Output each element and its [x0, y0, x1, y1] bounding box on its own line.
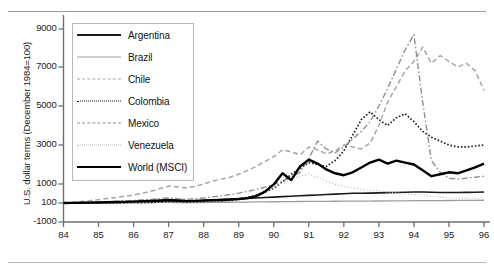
- legend-swatch-chile: [77, 74, 121, 85]
- y-tick-label: -1000: [13, 215, 57, 226]
- x-tick-label: 85: [88, 229, 110, 240]
- y-tick-label: 7000: [13, 60, 57, 71]
- legend-label: Brazil: [128, 52, 152, 63]
- x-tick-label: 91: [298, 229, 320, 240]
- y-tick-label: 100: [13, 196, 57, 207]
- legend-item-mexico: Mexico: [73, 112, 193, 134]
- x-tick-label: 96: [473, 229, 494, 240]
- legend-item-world: World (MSCI): [73, 156, 193, 178]
- legend-swatch-world: [77, 162, 121, 173]
- x-tick-label: 93: [368, 229, 390, 240]
- chart-legend: ArgentinaBrazilChileColombiaMexicoVenezu…: [72, 23, 194, 181]
- legend-swatch-venezuela: [77, 140, 121, 151]
- x-tick-label: 89: [228, 229, 250, 240]
- legend-item-argentina: Argentina: [73, 24, 193, 46]
- x-tick-label: 87: [158, 229, 180, 240]
- legend-swatch-brazil: [77, 52, 121, 63]
- y-tick-label: 3000: [13, 138, 57, 149]
- chart-figure: U.S. dollar terms (December 1984=100) 90…: [0, 0, 494, 273]
- legend-label: Chile: [128, 74, 150, 85]
- x-tick-label: 94: [403, 229, 425, 240]
- legend-item-brazil: Brazil: [73, 46, 193, 68]
- legend-label: Colombia: [128, 96, 169, 107]
- x-tick-label: 86: [123, 229, 145, 240]
- legend-swatch-argentina: [77, 30, 121, 41]
- x-tick-label: 90: [263, 229, 285, 240]
- legend-label: Argentina: [128, 30, 170, 41]
- legend-label: Venezuela: [128, 140, 174, 151]
- x-tick-label: 95: [438, 229, 460, 240]
- x-tick-label: 92: [333, 229, 355, 240]
- legend-label: World (MSCI): [128, 162, 187, 173]
- legend-swatch-mexico: [77, 118, 121, 129]
- legend-item-venezuela: Venezuela: [73, 134, 193, 156]
- y-tick-label: 9000: [13, 22, 57, 33]
- legend-item-chile: Chile: [73, 68, 193, 90]
- y-tick-label: 5000: [13, 99, 57, 110]
- y-tick-label: 1000: [13, 177, 57, 188]
- legend-item-colombia: Colombia: [73, 90, 193, 112]
- legend-label: Mexico: [128, 118, 159, 129]
- x-tick-label: 88: [193, 229, 215, 240]
- x-tick-label: 84: [53, 229, 75, 240]
- legend-swatch-colombia: [77, 96, 121, 107]
